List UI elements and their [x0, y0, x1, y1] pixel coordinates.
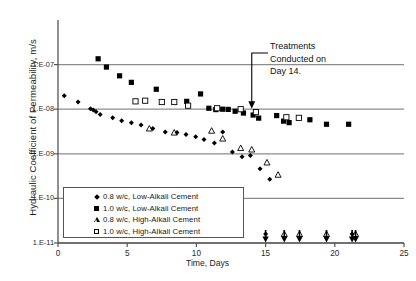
below-detection-arrow-head — [323, 237, 329, 243]
data-point-filled-square — [154, 87, 159, 92]
data-point-open-square — [185, 103, 190, 108]
legend-item: 1.0 w/c, High-Alkali Cement — [64, 226, 243, 238]
data-point-open-square — [296, 115, 301, 120]
data-point-filled-square — [198, 91, 203, 96]
legend-item: 1.0 w/c, Low-Alkali Cement — [64, 203, 243, 215]
below-detection-arrow-head — [296, 237, 302, 243]
data-point-filled-diamond — [220, 129, 225, 134]
data-point-filled-square — [274, 113, 279, 118]
legend-item-label: 1.0 w/c, Low-Alkali Cement — [103, 204, 198, 213]
data-point-filled-diamond — [110, 115, 115, 120]
data-point-filled-square — [346, 122, 351, 127]
data-point-filled-square — [226, 107, 231, 112]
data-point-filled-square — [324, 122, 329, 127]
legend: 0.8 w/c, Low-Alkali Cement 1.0 w/c, Low-… — [63, 187, 244, 238]
data-point-filled-diamond — [184, 132, 189, 137]
open-square-marker-icon — [90, 229, 103, 234]
data-point-filled-diamond — [163, 129, 168, 134]
data-point-filled-diamond — [263, 231, 268, 236]
data-point-open-square — [172, 99, 177, 104]
data-point-filled-square — [256, 116, 261, 121]
data-point-filled-diamond — [212, 140, 217, 145]
annotation-line-2: Conducted on — [270, 53, 326, 66]
data-point-open-triangle — [238, 145, 244, 151]
data-point-filled-diamond — [258, 166, 263, 171]
legend-item: 0.8 w/c, High-Alkali Cement — [64, 214, 243, 226]
data-point-open-square — [143, 98, 148, 103]
legend-item-label: 1.0 w/c, High-Alkali Cement — [103, 227, 200, 236]
below-detection-arrow-head — [281, 237, 287, 243]
data-point-filled-diamond — [139, 123, 144, 128]
annotation-treatments: Treatments Conducted on Day 14. — [270, 40, 326, 78]
open-triangle-marker-icon — [90, 217, 103, 222]
annotation-line-1: Treatments — [270, 40, 326, 53]
data-point-filled-diamond — [202, 137, 207, 142]
data-point-filled-square — [287, 120, 292, 125]
data-point-open-square — [238, 107, 243, 112]
data-point-filled-square — [129, 80, 134, 85]
legend-item-label: 0.8 w/c, High-Alkali Cement — [103, 215, 200, 224]
data-point-filled-diamond — [119, 118, 124, 123]
data-point-filled-square — [206, 106, 211, 111]
data-point-filled-diamond — [129, 120, 134, 125]
data-point-filled-diamond — [193, 134, 198, 139]
data-point-filled-square — [96, 56, 101, 61]
data-point-open-square — [159, 99, 164, 104]
data-point-open-triangle — [275, 172, 281, 178]
data-point-filled-square — [104, 64, 109, 69]
legend-item-label: 0.8 w/c, Low-Alkali Cement — [103, 192, 198, 201]
legend-item: 0.8 w/c, Low-Alkali Cement — [64, 191, 243, 203]
plot-area — [0, 0, 416, 281]
data-point-filled-square — [233, 109, 238, 114]
data-point-open-square — [284, 115, 289, 120]
filled-diamond-marker-icon — [90, 195, 103, 199]
data-point-open-triangle — [220, 136, 226, 142]
data-point-filled-diamond — [240, 154, 245, 159]
data-point-open-square — [133, 99, 138, 104]
data-point-open-triangle — [249, 146, 255, 152]
data-point-open-square — [253, 110, 258, 115]
data-point-open-triangle — [209, 128, 215, 134]
data-point-filled-square — [307, 117, 312, 122]
data-point-filled-diamond — [267, 177, 272, 182]
annotation-arrow-head — [248, 101, 255, 109]
figure-container: Hydraulic Coefficient of Permeability, m… — [0, 0, 416, 281]
data-point-open-triangle — [264, 159, 270, 165]
data-point-filled-diamond — [98, 112, 103, 117]
annotation-leader-line — [252, 53, 268, 103]
data-point-open-square — [215, 106, 220, 111]
data-point-filled-diamond — [62, 93, 67, 98]
data-point-filled-diamond — [76, 100, 81, 105]
below-detection-arrow-head — [262, 237, 268, 243]
filled-square-marker-icon — [90, 206, 103, 211]
data-point-filled-square — [220, 107, 225, 112]
data-point-filled-square — [117, 73, 122, 78]
annotation-line-3: Day 14. — [270, 65, 326, 78]
